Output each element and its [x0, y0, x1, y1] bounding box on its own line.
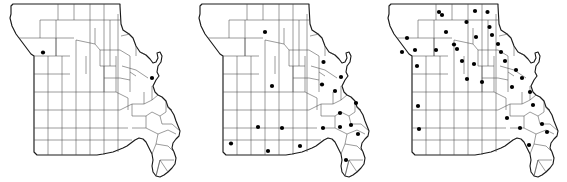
county-dot-marker — [527, 143, 531, 147]
county-dot-marker — [474, 35, 478, 39]
county-dot-marker — [321, 60, 325, 64]
county-dot-marker — [349, 123, 353, 127]
county-dot-marker — [452, 42, 456, 46]
county-dot-marker — [229, 141, 233, 145]
county-dot-marker — [339, 75, 343, 79]
missouri-geometry-3 — [388, 4, 558, 177]
county-dot-marker — [444, 30, 448, 34]
map-panel-1 — [0, 0, 189, 182]
county-dot-marker — [485, 10, 489, 14]
county-dot-marker — [520, 76, 524, 80]
county-dot-marker — [41, 50, 45, 54]
county-dot-marker — [518, 126, 522, 130]
county-dot-marker — [473, 9, 477, 13]
county-dot-marker — [499, 50, 503, 54]
county-dot-marker — [280, 126, 284, 130]
map-panel-3 — [378, 0, 567, 182]
county-dot-marker — [415, 64, 419, 68]
county-dot-marker — [480, 80, 484, 84]
county-dot-marker — [514, 68, 518, 72]
county-dot-marker — [465, 77, 469, 81]
county-dot-marker — [472, 62, 476, 66]
missouri-geometry-1 — [10, 4, 180, 177]
county-dot-marker — [413, 48, 417, 52]
three-panel-map-figure — [0, 0, 567, 182]
county-dot-marker — [487, 25, 491, 29]
county-dot-marker — [437, 10, 441, 14]
county-dot-marker — [460, 59, 464, 63]
county-dot-marker — [266, 149, 270, 153]
county-dot-marker — [510, 85, 514, 89]
county-dot-marker — [338, 111, 342, 115]
missouri-map-svg-2 — [189, 0, 378, 182]
county-dot-marker — [464, 20, 468, 24]
county-dot-marker — [455, 47, 459, 51]
county-dot-marker — [505, 116, 509, 120]
missouri-map-svg-1 — [0, 0, 189, 182]
county-dot-marker — [545, 130, 549, 134]
county-dot-marker — [256, 125, 260, 129]
county-dot-marker — [356, 132, 360, 136]
county-dot-marker — [150, 76, 154, 80]
county-dot-marker — [320, 82, 324, 86]
county-dot-marker — [417, 127, 421, 131]
county-dot-marker — [354, 101, 358, 105]
map-panel-2 — [189, 0, 378, 182]
county-dot-marker — [298, 144, 302, 148]
county-dot-marker — [263, 30, 267, 34]
county-dot-marker — [270, 84, 274, 88]
county-dot-marker — [440, 13, 444, 17]
county-dot-marker — [540, 122, 544, 126]
county-dot-marker — [405, 36, 409, 40]
missouri-map-svg-3 — [378, 0, 567, 182]
county-dot-marker — [528, 90, 532, 94]
county-dot-marker — [490, 33, 494, 37]
county-dot-marker — [434, 48, 438, 52]
county-dot-marker — [503, 59, 507, 63]
county-dot-marker — [400, 50, 404, 54]
county-dot-marker — [344, 158, 348, 162]
missouri-geometry-2 — [199, 4, 369, 177]
county-dot-marker — [321, 126, 325, 130]
county-dot-marker — [496, 42, 500, 46]
county-dot-marker — [531, 103, 535, 107]
county-dot-marker — [338, 125, 342, 129]
county-dot-marker — [416, 104, 420, 108]
county-dot-marker — [333, 89, 337, 93]
